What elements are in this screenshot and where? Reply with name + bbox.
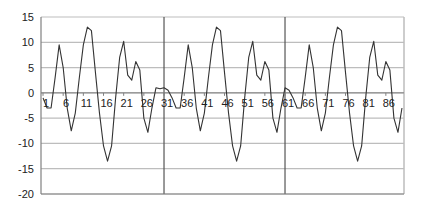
x-tick-label: 71 [322,97,334,109]
x-tick-label: 81 [363,97,375,109]
x-tick-label: 1 [43,97,49,109]
x-tick-label: 51 [242,97,254,109]
x-tick-label: 31 [161,97,173,109]
x-tick-label: 61 [282,97,294,109]
x-tick-label: 11 [81,97,92,109]
line-chart: 151050-5-10-15-20 1611162126313641465156… [0,0,425,210]
y-tick-label: 5 [28,62,34,74]
y-tick-label: -20 [18,188,34,200]
series-line [43,27,402,161]
x-tick-label: 36 [181,97,193,109]
x-tick-label: 86 [383,97,395,109]
x-tick-label: 21 [121,97,133,109]
x-tick-label: 46 [221,97,233,109]
y-tick-label: 0 [28,87,34,99]
x-tick-label: 56 [262,97,274,109]
x-tick-label: 26 [141,97,153,109]
y-tick-label: -15 [18,163,34,175]
y-tick-label: 10 [22,36,34,48]
data-series [43,27,402,161]
y-axis-tick-labels: 151050-5-10-15-20 [18,11,34,200]
x-tick-label: 41 [201,97,213,109]
x-axis-tick-labels: 1611162126313641465156616671768186 [43,93,395,109]
x-tick-label: 76 [342,97,354,109]
x-tick-label: 66 [302,97,314,109]
y-tick-label: -5 [24,112,34,124]
x-tick-label: 16 [100,97,112,109]
y-tick-label: -10 [18,137,34,149]
x-tick-label: 6 [63,97,69,109]
y-tick-label: 15 [22,11,34,23]
